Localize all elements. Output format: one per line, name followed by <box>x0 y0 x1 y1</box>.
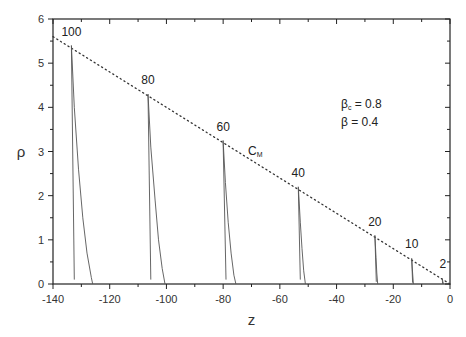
x-tick-label: -40 <box>329 293 345 305</box>
x-tick-label: 0 <box>447 293 453 305</box>
cm-label-main: C <box>248 144 257 158</box>
x-axis: -140-120-100-80-60-40-200 <box>42 19 453 305</box>
annotation-60: 60 <box>216 120 230 134</box>
x-axis-label: z <box>248 311 256 328</box>
x-tick-label: -60 <box>272 293 288 305</box>
y-axis-label: ρ <box>17 143 26 160</box>
y-tick-label: 0 <box>38 278 44 290</box>
annotation-10: 10 <box>405 237 419 251</box>
param-beta: β = 0.4 <box>341 115 382 130</box>
annotation-2: 2 <box>440 257 447 271</box>
cm-label: CM <box>248 144 263 158</box>
cm-reference-line <box>53 37 450 284</box>
series-line-40 <box>298 187 305 284</box>
x-tick-label: -100 <box>155 293 177 305</box>
cm-dotted-line <box>53 37 450 284</box>
series-line-2 <box>442 279 443 284</box>
param-beta-c-value: 0.8 <box>365 97 382 111</box>
series-line-60 <box>223 141 236 285</box>
parameter-box: βc = 0.8 β = 0.4 <box>341 97 382 130</box>
y-tick-label: 6 <box>38 13 44 25</box>
param-beta-value: 0.4 <box>362 115 379 129</box>
series-line-20 <box>375 235 378 284</box>
x-tick-label: -120 <box>99 293 121 305</box>
param-beta-c-symbol: β <box>341 97 348 111</box>
x-tick-label: -140 <box>42 293 64 305</box>
param-beta-symbol: β <box>341 115 348 129</box>
x-tick-label: -20 <box>385 293 401 305</box>
y-tick-label: 3 <box>38 146 44 158</box>
x-tick-label: -80 <box>215 293 231 305</box>
cm-label-sub: M <box>257 151 263 158</box>
y-tick-label: 5 <box>38 57 44 69</box>
series-line-80 <box>148 94 165 284</box>
y-tick-label: 4 <box>38 101 44 113</box>
annotation-100: 100 <box>61 25 81 39</box>
series-group <box>71 46 443 285</box>
chart: -140-120-100-80-60-40-200 0123456 100806… <box>0 0 466 337</box>
series-line-10 <box>412 258 414 284</box>
y-tick-label: 2 <box>38 190 44 202</box>
y-tick-label: 1 <box>38 234 44 246</box>
annotation-40: 40 <box>292 166 306 180</box>
param-beta-c: βc = 0.8 <box>341 97 382 115</box>
param-beta-c-sub: c <box>348 104 352 111</box>
y-axis: 0123456 <box>38 13 450 290</box>
annotation-20: 20 <box>368 215 382 229</box>
series-line-100 <box>71 46 92 285</box>
annotation-80: 80 <box>141 73 155 87</box>
